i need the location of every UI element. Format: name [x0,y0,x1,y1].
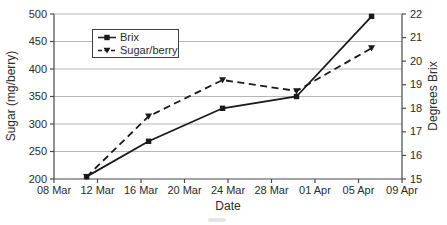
chart-figure: 200250300350400450500151617181920212208 … [0,0,447,225]
left-tick-label: 250 [29,145,47,157]
series-brix-marker-square [146,139,151,144]
right-tick-label: 18 [410,102,422,114]
right-tick-label: 20 [410,55,422,67]
scan-artifact [208,218,226,222]
x-tick-label: 24 Mar [211,184,246,196]
chart-plot-area: 200250300350400450500151617181920212208 … [0,0,447,225]
x-tick-label: 28 Mar [254,184,289,196]
x-axis-title: Date [54,199,402,213]
right-axis-title: Degrees Brix [426,14,440,179]
left-tick-label: 200 [29,173,47,185]
right-tick-label: 21 [410,31,422,43]
x-tick-label: 05 Apr [343,184,375,196]
series-brix-marker-square [369,14,374,19]
right-tick-label: 16 [410,149,422,161]
right-tick-label: 17 [410,125,422,137]
legend-dashed-line-triangle-marker-icon [98,46,116,55]
legend-label-sugar-berry: Sugar/berry [120,44,177,57]
series-sugar-berry-marker-triangle-down [368,45,375,51]
series-sugar-berry-line [87,48,372,177]
right-tick-label: 22 [410,8,422,20]
left-tick-label: 350 [29,90,47,102]
x-tick-label: 08 Mar [37,184,72,196]
legend: Brix Sugar/berry [92,29,179,58]
legend-label-brix: Brix [120,31,139,44]
x-tick-label: 01 Apr [299,184,331,196]
left-tick-label: 400 [29,63,47,75]
left-tick-label: 500 [29,8,47,20]
left-tick-label: 450 [29,35,47,47]
series-brix-marker-square [294,94,299,99]
series-brix-marker-square [220,106,225,111]
legend-item-brix: Brix [98,31,178,44]
right-tick-label: 15 [410,173,422,185]
x-tick-label: 12 Mar [80,184,115,196]
left-axis-title: Sugar (mg/berry) [4,14,18,179]
left-tick-label: 300 [29,118,47,130]
legend-solid-line-square-marker-icon [98,33,116,42]
x-tick-label: 09 Apr [386,184,418,196]
x-tick-label: 16 Mar [124,184,159,196]
x-tick-label: 20 Mar [167,184,202,196]
legend-item-sugar-berry: Sugar/berry [98,44,178,57]
right-tick-label: 19 [410,78,422,90]
